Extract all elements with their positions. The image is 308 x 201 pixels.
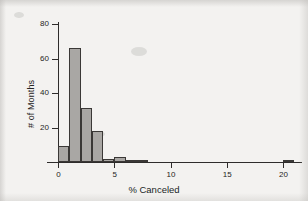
- histogram-plot: 80 60 40 20 # of Months 0 5 10 15 20 % C…: [0, 0, 308, 201]
- bar-bin-4-5: [103, 159, 114, 163]
- x-tick-label-10: 10: [161, 170, 182, 179]
- y-axis-line: [58, 22, 59, 163]
- y-tick-40: [52, 93, 58, 94]
- chart-page: 80 60 40 20 # of Months 0 5 10 15 20 % C…: [0, 0, 308, 201]
- x-tick-label-0: 0: [48, 170, 69, 179]
- x-tick-20: [283, 162, 284, 168]
- bar-bin-1-2: [69, 48, 80, 163]
- x-tick-10: [171, 162, 172, 168]
- scan-artifact: [131, 47, 147, 56]
- x-axis-line: [47, 162, 302, 163]
- y-axis-label: # of Months: [26, 80, 36, 128]
- y-tick-60: [52, 59, 58, 60]
- x-tick-label-20: 20: [273, 170, 294, 179]
- bar-bin-3-4: [92, 131, 103, 162]
- x-tick-label-5: 5: [104, 170, 125, 179]
- x-axis-label: % Canceled: [0, 184, 308, 195]
- bar-bin-0-1: [58, 146, 69, 162]
- x-tick-0: [58, 162, 59, 168]
- x-tick-15: [227, 162, 228, 168]
- bar-bin-20-21: [283, 160, 294, 162]
- y-tick-80: [52, 24, 58, 25]
- bar-bin-5-6: [114, 157, 125, 162]
- y-tick-20: [52, 128, 58, 129]
- scan-artifact: [14, 12, 24, 18]
- bar-bin-2-3: [81, 108, 92, 162]
- y-tick-label-60: 60: [30, 54, 49, 63]
- y-tick-label-80: 80: [30, 19, 49, 28]
- x-tick-label-15: 15: [217, 170, 238, 179]
- x-tick-5: [114, 162, 115, 168]
- bar-bin-6-7: [126, 160, 137, 162]
- bar-bin-7-8: [137, 160, 148, 162]
